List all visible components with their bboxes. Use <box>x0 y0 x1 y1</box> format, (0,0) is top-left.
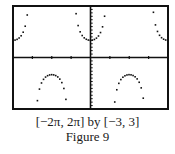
plot-dot <box>136 78 138 80</box>
plot-dot <box>24 25 26 27</box>
plot-dot <box>57 76 59 78</box>
plot-dot <box>153 11 155 13</box>
plot-dot <box>167 40 169 42</box>
plot-dot <box>47 75 49 77</box>
plot-dot <box>20 35 22 37</box>
plot-dot <box>37 100 39 102</box>
viewing-window-caption: [−2π, 2π] by [−3, 3] <box>0 115 175 129</box>
plot-dot <box>90 40 92 42</box>
plot-dot <box>98 35 100 37</box>
plot-dot <box>134 76 136 78</box>
plot-dot <box>122 76 124 78</box>
plot-dot <box>104 15 106 17</box>
plot-dot <box>39 88 41 90</box>
plot-dot <box>94 39 96 41</box>
plot-dot <box>81 35 83 37</box>
plot-dot <box>59 78 61 80</box>
plot-dot <box>77 25 79 27</box>
plot-dot <box>12 40 14 42</box>
plot-dot <box>161 37 163 39</box>
plot-dot <box>157 31 159 33</box>
plot-dot <box>65 99 67 101</box>
plot-dot <box>79 31 81 33</box>
y-axis <box>91 6 93 109</box>
plot-dot <box>142 97 144 99</box>
plot-dot <box>165 39 167 41</box>
plot-dot <box>22 31 24 33</box>
plot-dot <box>88 39 90 41</box>
plot-dot <box>118 83 120 85</box>
plot-dot <box>100 32 102 34</box>
plot-dot <box>14 39 16 41</box>
plot-dot <box>61 82 63 84</box>
plot-dot <box>49 74 51 76</box>
plot-dot <box>155 24 157 26</box>
plot-dot <box>102 26 104 28</box>
plot-dot <box>116 89 118 91</box>
plot-dot <box>159 35 161 37</box>
plot-dot <box>43 79 45 81</box>
plot-dot <box>96 37 98 39</box>
plot-dot <box>124 75 126 77</box>
plot-dot <box>132 75 134 77</box>
plot-dot <box>130 74 132 76</box>
plot-dot <box>45 76 47 78</box>
plot-dot <box>85 38 87 40</box>
plot-dot <box>114 101 116 103</box>
plot-dot <box>26 14 28 16</box>
plot-dot <box>55 75 57 77</box>
figure-label: Figure 9 <box>0 130 175 144</box>
graph-window <box>0 0 175 112</box>
plot-dot <box>53 74 55 76</box>
plot-dot <box>138 81 140 83</box>
plot-dot <box>126 74 128 76</box>
plot-dot <box>75 13 77 15</box>
plot-dot <box>16 39 18 41</box>
plot-dot <box>140 87 142 89</box>
plot-dot <box>51 74 53 76</box>
plot-dot <box>41 82 43 84</box>
plot-dot <box>120 79 122 81</box>
plot-dot <box>63 88 65 90</box>
plot-dot <box>18 37 20 39</box>
plot-dot <box>83 37 85 39</box>
plot-dot <box>163 38 165 40</box>
plot-dot <box>128 74 130 76</box>
plot-dot <box>92 39 94 41</box>
